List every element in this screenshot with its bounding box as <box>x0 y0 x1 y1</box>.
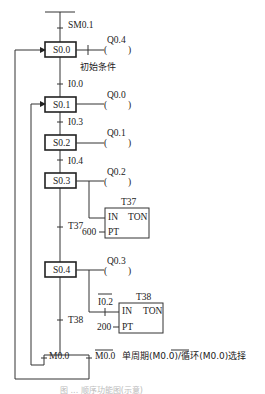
timer-in-t38: IN <box>122 306 132 316</box>
branch-description: 单周期(M0.0)/循环(M0.0)选择 <box>122 350 246 361</box>
timer-name-t37: T37 <box>121 197 137 207</box>
transition-label-i00: I0.0 <box>68 79 83 89</box>
coil-right-paren: ) <box>128 138 131 149</box>
timer-name-t38: T38 <box>136 292 152 302</box>
coil-right-paren: ) <box>128 266 131 277</box>
sfc-diagram: SM0.1 S0.0 ( ) Q0.4 初始条件 I0.0 S0.1 ( ) Q… <box>0 0 265 394</box>
coil-right-paren: ) <box>128 45 131 56</box>
coil-label-q00: Q0.0 <box>107 90 126 100</box>
timer-type-t38: TON <box>143 306 162 316</box>
step-label-s02: S0.2 <box>53 138 70 148</box>
step-label-s01: S0.1 <box>53 100 70 110</box>
timer-preset-t38: 200 <box>97 322 112 332</box>
branch-label-not-m00: M0.0 <box>95 351 116 361</box>
branch-label-m00: M0.0 <box>49 351 70 361</box>
coil-right-paren: ) <box>128 100 131 111</box>
coil-left-paren: ( <box>104 45 107 56</box>
transition-label-t37: T37 <box>68 221 84 231</box>
step-label-s04: S0.4 <box>53 265 70 275</box>
transition-label-t38: T38 <box>68 315 84 325</box>
figure-caption: 图 ... 顺序功能图(示意) <box>60 385 143 394</box>
step-label-s00: S0.0 <box>53 45 70 55</box>
timer-in-t37: IN <box>108 212 118 222</box>
transition-label-i04: I0.4 <box>68 156 83 166</box>
timer-pt-t37: PT <box>108 227 119 237</box>
transition-label-i03: I0.3 <box>68 117 83 127</box>
coil-left-paren: ( <box>104 177 107 188</box>
transition-label-sm01: SM0.1 <box>68 20 94 30</box>
coil-label-q01: Q0.1 <box>107 128 126 138</box>
coil-left-paren: ( <box>104 138 107 149</box>
initial-condition-note: 初始条件 <box>80 61 116 72</box>
coil-label-q03: Q0.3 <box>107 256 126 266</box>
contact-label-i02: I0.2 <box>98 297 113 307</box>
timer-type-t37: TON <box>128 212 147 222</box>
coil-label-q04: Q0.4 <box>107 35 126 45</box>
coil-left-paren: ( <box>104 100 107 111</box>
timer-pt-t38: PT <box>122 322 133 332</box>
coil-label-q02: Q0.2 <box>107 167 126 177</box>
coil-right-paren: ) <box>128 177 131 188</box>
step-label-s03: S0.3 <box>53 176 70 186</box>
timer-preset-t37: 600 <box>82 227 97 237</box>
coil-left-paren: ( <box>104 266 107 277</box>
